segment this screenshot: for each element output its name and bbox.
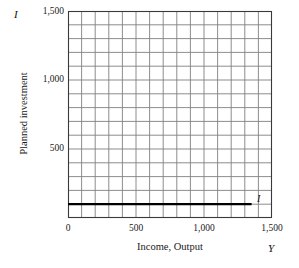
investment-line-series <box>68 11 272 218</box>
x-tick-label-1000: 1,000 <box>181 224 227 234</box>
y-tick-label-1000: 1,000 <box>20 75 64 85</box>
x-tick-label-1500: 1,500 <box>249 224 295 234</box>
x-axis-symbol: Y <box>268 243 274 254</box>
y-tick-label-1500: 1,500 <box>20 7 64 17</box>
plot-area <box>68 11 272 218</box>
y-axis-title: Planned investment <box>18 44 29 184</box>
series-label-investment: I <box>257 194 260 204</box>
x-tick-label-500: 500 <box>113 224 159 234</box>
investment-function-figure: I Planned investment 1,500 1,000 500 0 5… <box>0 0 299 268</box>
y-tick-label-500: 500 <box>20 144 64 154</box>
x-tick-label-0: 0 <box>45 224 91 234</box>
y-axis-symbol: I <box>14 9 18 20</box>
x-axis-title: Income, Output <box>68 241 272 252</box>
